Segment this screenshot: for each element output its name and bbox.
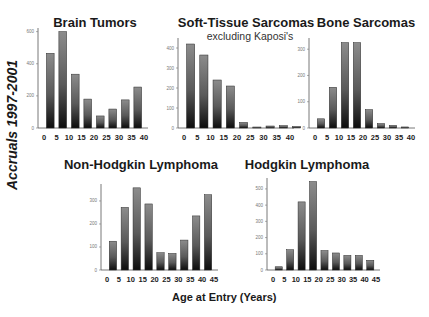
bar-35-39	[279, 126, 287, 128]
x-tick-label: 35	[273, 133, 281, 142]
x-tick-label: 30	[174, 275, 182, 284]
x-tick-label: 30	[115, 133, 123, 142]
bar-30-34	[266, 126, 274, 128]
bar-15-19	[226, 86, 234, 128]
bar-0-4	[317, 119, 324, 128]
bar-35-39	[134, 87, 142, 128]
x-tick-label: 35	[349, 275, 357, 284]
y-tick-label: 300	[297, 47, 305, 52]
bar-35-39	[192, 216, 199, 270]
y-tick-label: 600	[26, 29, 34, 34]
x-tick-label: 45	[372, 275, 380, 284]
x-tick-label: 40	[360, 275, 368, 284]
x-tick-label: 0	[271, 275, 275, 284]
bar-25-29	[332, 253, 339, 270]
x-tick-label: 25	[371, 133, 379, 142]
x-tick-label: 5	[117, 275, 121, 284]
x-tick-label: 20	[90, 133, 98, 142]
bar-25-29	[377, 124, 384, 128]
y-tick-label: 200	[297, 73, 305, 78]
y-tick-label: 200	[166, 86, 174, 91]
bar-20-24	[365, 110, 372, 128]
x-tick-label: 15	[77, 133, 85, 142]
y-tick-label: 200	[89, 221, 97, 226]
bar-10-14	[71, 74, 79, 128]
bar-35-39	[355, 255, 362, 270]
bar-30-34	[344, 255, 351, 270]
y-tick-label: 300	[255, 219, 263, 224]
y-tick-label: 100	[89, 244, 97, 249]
bar-15-19	[310, 182, 317, 270]
bar-30-34	[181, 240, 188, 270]
y-tick-label: 500	[255, 186, 263, 191]
x-tick-label: 5	[325, 133, 329, 142]
x-tick-label: 35	[395, 133, 403, 142]
chart-hodgkin-lymphoma: 0100200300400500051015202530354045	[255, 178, 380, 284]
y-tick-label: 300	[89, 198, 97, 203]
chart-brain-tumors: 02004006000510152025303540	[26, 28, 148, 142]
bar-20-24	[321, 251, 328, 270]
x-tick-label: 10	[206, 133, 214, 142]
bar-10-14	[213, 80, 221, 128]
x-tick-label: 0	[313, 133, 317, 142]
bar-0-4	[109, 241, 116, 270]
x-tick-label: 0	[182, 133, 186, 142]
y-tick-label: 0	[94, 268, 97, 273]
x-tick-label: 45	[210, 275, 218, 284]
y-tick-label: 100	[166, 106, 174, 111]
bar-15-19	[84, 99, 92, 128]
bar-20-24	[96, 116, 104, 128]
x-tick-label: 0	[42, 133, 46, 142]
bar-10-14	[341, 43, 348, 128]
x-tick-label: 20	[233, 133, 241, 142]
x-tick-label: 0	[105, 275, 109, 284]
x-tick-label: 10	[292, 275, 300, 284]
bar-10-14	[133, 188, 140, 270]
chart-soft-tissue-sarcomas: 01002003004000510152025303540	[166, 38, 300, 142]
bar-5-9	[287, 250, 294, 270]
bar-20-24	[240, 122, 248, 128]
x-tick-label: 20	[315, 275, 323, 284]
bar-5-9	[121, 207, 128, 270]
bar-15-19	[353, 43, 360, 128]
x-tick-label: 10	[335, 133, 343, 142]
y-tick-label: 0	[31, 126, 34, 131]
x-tick-label: 35	[127, 133, 135, 142]
chart-non-hodgkin-lymphoma: 0100200300051015202530354045	[89, 184, 218, 284]
x-tick-label: 5	[54, 133, 58, 142]
bar-10-14	[298, 202, 305, 270]
x-tick-label: 5	[195, 133, 199, 142]
x-tick-label: 25	[246, 133, 254, 142]
x-tick-label: 15	[347, 133, 355, 142]
bar-40-44	[204, 195, 211, 270]
x-tick-label: 25	[102, 133, 110, 142]
x-tick-label: 30	[337, 275, 345, 284]
y-tick-label: 400	[26, 61, 34, 66]
bar-5-9	[59, 32, 67, 128]
y-tick-label: 400	[255, 203, 263, 208]
bar-20-24	[157, 253, 164, 270]
bar-25-29	[169, 253, 176, 270]
y-tick-label: 200	[26, 93, 34, 98]
x-tick-label: 20	[150, 275, 158, 284]
x-tick-label: 5	[282, 275, 286, 284]
y-tick-label: 0	[171, 126, 174, 131]
x-tick-label: 15	[220, 133, 228, 142]
bar-25-29	[253, 127, 261, 128]
y-tick-label: 100	[255, 251, 263, 256]
bar-30-34	[121, 100, 129, 128]
x-tick-label: 25	[162, 275, 170, 284]
bar-0-4	[187, 44, 195, 128]
x-tick-label: 40	[286, 133, 294, 142]
y-tick-label: 0	[260, 268, 263, 273]
bar-0-4	[275, 267, 282, 270]
chart-bone-sarcomas: 01002003000510152025303540	[297, 38, 415, 142]
x-tick-label: 20	[359, 133, 367, 142]
bar-5-9	[200, 55, 208, 128]
x-tick-label: 35	[186, 275, 194, 284]
bar-40-44	[367, 260, 374, 270]
x-tick-label: 25	[326, 275, 334, 284]
bar-0-4	[46, 53, 54, 128]
x-tick-label: 10	[65, 133, 73, 142]
x-tick-label: 40	[198, 275, 206, 284]
